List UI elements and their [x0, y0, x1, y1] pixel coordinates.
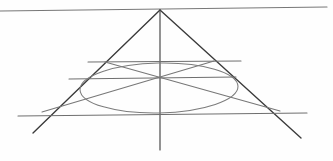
- drawing-canvas: [0, 0, 333, 161]
- geometry-figure: [0, 0, 333, 161]
- paper-background: [0, 0, 333, 161]
